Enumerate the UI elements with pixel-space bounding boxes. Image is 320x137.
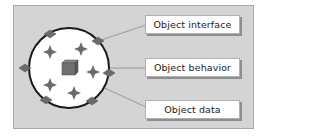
object-behavior-label: Object behavior	[145, 58, 240, 77]
data-cube-icon	[62, 60, 78, 75]
object-data-label: Object data	[145, 100, 240, 119]
interface-connector	[98, 25, 146, 41]
object-interface-label: Object interface	[145, 15, 240, 34]
